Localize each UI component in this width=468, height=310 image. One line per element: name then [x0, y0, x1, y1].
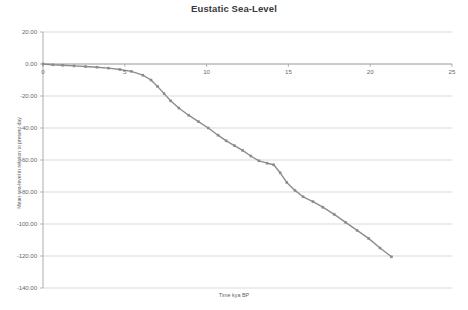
data-point-marker — [197, 120, 200, 123]
data-point-marker — [249, 155, 252, 158]
data-point-marker — [73, 65, 76, 68]
data-point-marker — [266, 162, 269, 165]
x-tick-label: 5 — [115, 68, 135, 75]
eustatic-sea-level-chart: Eustatic Sea-Level Mean sea-level in rel… — [0, 0, 468, 310]
x-tick-label: 0 — [33, 68, 53, 75]
gridlines — [43, 32, 452, 288]
data-point-marker — [52, 64, 55, 67]
data-point-marker — [302, 196, 305, 199]
data-series — [42, 63, 393, 258]
y-tick-label: -60.00 — [3, 156, 37, 163]
data-point-marker — [356, 229, 359, 232]
x-tick-label: 25 — [442, 68, 462, 75]
series-line — [43, 64, 391, 257]
data-point-marker — [225, 140, 228, 143]
data-point-marker — [285, 181, 288, 184]
y-tick-label: -20.00 — [3, 92, 37, 99]
data-point-marker — [150, 79, 153, 82]
data-point-marker — [321, 206, 324, 209]
y-tick-label: -120.00 — [3, 252, 37, 259]
data-point-marker — [142, 74, 145, 77]
data-point-marker — [217, 134, 220, 137]
data-point-marker — [333, 213, 336, 216]
data-point-marker — [207, 127, 210, 130]
data-point-marker — [42, 63, 45, 66]
data-point-marker — [272, 164, 275, 167]
x-tick-label: 15 — [278, 68, 298, 75]
data-point-marker — [294, 189, 297, 192]
data-point-marker — [367, 237, 370, 240]
data-point-marker — [279, 172, 282, 175]
data-point-marker — [390, 256, 393, 259]
y-tick-label: -80.00 — [3, 188, 37, 195]
y-tick-label: -100.00 — [3, 220, 37, 227]
data-point-marker — [344, 221, 347, 224]
data-point-marker — [169, 100, 172, 103]
y-tick-label: 0.00 — [3, 60, 37, 67]
data-point-marker — [84, 65, 87, 68]
data-point-marker — [61, 64, 64, 67]
y-tick-label: 20.00 — [3, 28, 37, 35]
data-point-marker — [233, 144, 236, 147]
data-point-marker — [187, 114, 190, 117]
x-tick-label: 20 — [360, 68, 380, 75]
plot-area — [0, 0, 468, 310]
data-point-marker — [379, 247, 382, 250]
data-point-marker — [241, 149, 244, 152]
data-point-marker — [156, 85, 159, 88]
x-tick-label: 10 — [197, 68, 217, 75]
data-point-marker — [163, 92, 166, 95]
data-point-marker — [312, 200, 315, 203]
data-point-marker — [258, 160, 261, 163]
data-point-marker — [107, 67, 110, 70]
data-point-marker — [177, 107, 180, 110]
y-tick-label: -140.00 — [3, 284, 37, 291]
y-tick-label: -40.00 — [3, 124, 37, 131]
data-point-marker — [96, 66, 99, 69]
